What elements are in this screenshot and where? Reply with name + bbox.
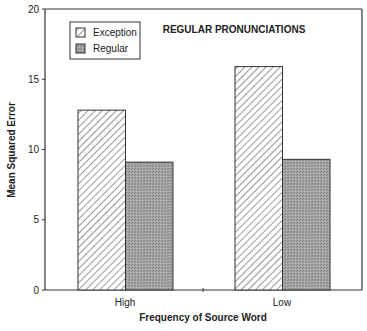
bar-chart: 05101520 High Low Frequency of Source Wo…: [0, 0, 367, 331]
bars: [78, 67, 330, 290]
y-axis-ticks: 05101520: [28, 4, 45, 296]
legend-swatch-regular: [76, 44, 85, 53]
y-tick-label: 5: [33, 214, 39, 225]
chart-title: REGULAR PRONUNCIATIONS: [163, 24, 306, 35]
y-tick-label: 0: [33, 285, 39, 296]
legend: Exception Regular: [70, 22, 140, 59]
legend-label-exception: Exception: [93, 27, 137, 38]
bar-high-regular: [126, 162, 174, 290]
legend-swatch-exception: [76, 28, 85, 37]
x-tick-label-high: High: [115, 297, 136, 308]
bar-high-exception: [78, 110, 126, 290]
y-tick-label: 15: [28, 74, 40, 85]
y-axis-label: Mean Squared Error: [6, 102, 17, 198]
legend-label-regular: Regular: [93, 43, 129, 54]
x-tick-label-low: Low: [273, 297, 292, 308]
y-tick-label: 20: [28, 4, 40, 15]
bar-low-regular: [283, 159, 331, 290]
y-tick-label: 10: [28, 144, 40, 155]
x-axis-label: Frequency of Source Word: [139, 312, 267, 323]
bar-low-exception: [235, 67, 283, 290]
